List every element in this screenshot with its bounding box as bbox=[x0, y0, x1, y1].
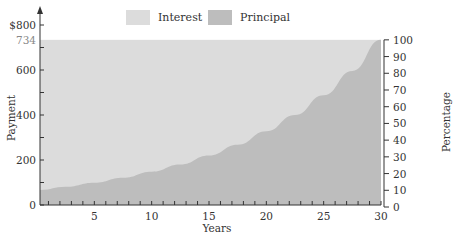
x-tick-label: 5 bbox=[91, 210, 98, 222]
right-tick-label: 20 bbox=[393, 168, 406, 180]
total-payment-label: 734 bbox=[16, 34, 36, 46]
legend-principal-label: Principal bbox=[240, 11, 290, 24]
right-axis-label: Percentage bbox=[440, 92, 452, 152]
right-tick-label: 70 bbox=[393, 84, 406, 96]
legend-principal: Principal bbox=[208, 10, 290, 25]
right-tick-label: 60 bbox=[393, 101, 406, 113]
right-tick-label: 90 bbox=[393, 51, 406, 63]
x-tick-label: 25 bbox=[317, 210, 330, 222]
left-tick-label: 0 bbox=[29, 199, 36, 211]
interest-swatch bbox=[126, 10, 150, 25]
right-tick-label: 100 bbox=[393, 34, 413, 46]
right-tick-label: 30 bbox=[393, 151, 406, 163]
x-tick-label: 15 bbox=[202, 210, 215, 222]
legend-interest: Interest bbox=[126, 10, 202, 25]
mortgage-chart: 0200400600$800734Payment51015202530Years… bbox=[0, 0, 462, 239]
axis-arrow-icon bbox=[37, 6, 43, 14]
left-tick-label: 400 bbox=[16, 109, 36, 121]
right-tick-label: 10 bbox=[393, 184, 406, 196]
right-tick-label: 40 bbox=[393, 134, 406, 146]
left-tick-label: $800 bbox=[9, 19, 36, 31]
principal-swatch bbox=[208, 10, 232, 25]
x-tick-label: 20 bbox=[260, 210, 273, 222]
left-tick-label: 200 bbox=[16, 154, 36, 166]
left-tick-label: 600 bbox=[16, 64, 36, 76]
right-tick-label: 0 bbox=[393, 201, 400, 213]
y-axis-label: Payment bbox=[5, 94, 17, 141]
x-tick-label: 30 bbox=[374, 210, 387, 222]
x-axis-label: Years bbox=[202, 222, 232, 234]
x-tick-label: 10 bbox=[145, 210, 158, 222]
right-tick-label: 80 bbox=[393, 67, 406, 79]
legend-interest-label: Interest bbox=[158, 11, 202, 24]
right-tick-label: 50 bbox=[393, 117, 406, 129]
